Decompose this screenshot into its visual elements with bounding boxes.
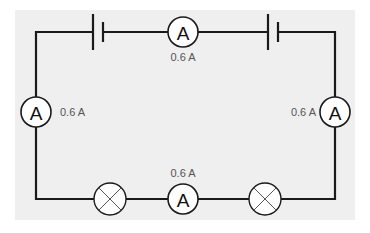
lamp-bottom-right <box>249 183 281 215</box>
ammeter-bottom: A 0.6 A <box>168 167 198 214</box>
ammeter-symbol: A <box>177 190 190 211</box>
ammeter-symbol: A <box>30 103 43 124</box>
ammeter-reading: 0.6 A <box>291 106 317 118</box>
ammeter-reading: 0.6 A <box>60 106 86 118</box>
ammeter-symbol: A <box>177 23 190 44</box>
ammeter-reading: 0.6 A <box>170 51 196 63</box>
ammeter-reading: 0.6 A <box>170 167 196 179</box>
lamp-bottom-left <box>94 183 126 215</box>
ammeter-top: A 0.6 A <box>168 17 198 63</box>
ammeter-symbol: A <box>329 103 342 124</box>
circuit-diagram: A 0.6 A A 0.6 A A 0.6 A A 0.6 A <box>0 0 370 233</box>
